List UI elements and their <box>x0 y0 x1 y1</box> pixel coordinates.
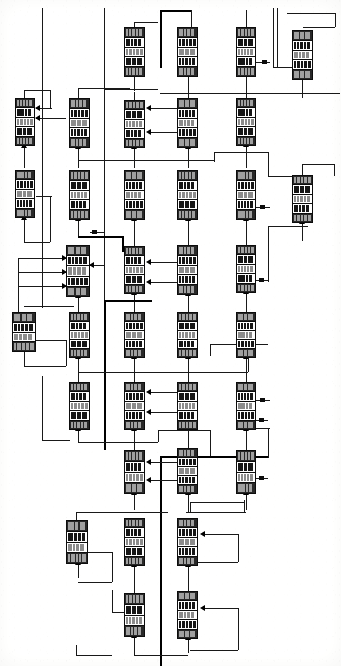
block-text-row <box>125 191 144 201</box>
block-text-row <box>70 349 89 357</box>
illegible-micro-text <box>238 68 254 75</box>
illegible-micro-text <box>68 278 88 285</box>
block-text-row <box>178 592 197 601</box>
illegible-micro-text <box>14 343 34 350</box>
block-text-row <box>125 101 144 110</box>
block-text-row <box>67 521 87 532</box>
wire-horizontal <box>76 655 112 656</box>
block-text-row <box>16 137 34 145</box>
block-text-row <box>178 266 197 276</box>
block-text-row <box>178 181 197 191</box>
illegible-micro-text <box>71 110 88 117</box>
illegible-micro-text <box>126 172 143 179</box>
wire-vertical <box>134 566 135 594</box>
wire-horizontal <box>24 242 50 243</box>
block-text-row <box>237 313 255 322</box>
illegible-micro-text <box>238 463 254 471</box>
illegible-micro-text <box>179 58 196 65</box>
block-text-row <box>293 204 312 213</box>
block-text-row <box>178 210 197 219</box>
diagram-block <box>124 450 145 494</box>
wire-vertical <box>188 295 189 313</box>
illegible-micro-text <box>238 211 254 218</box>
wire-vertical <box>112 552 113 582</box>
wire-horizontal <box>204 534 238 535</box>
block-text-row <box>178 119 197 129</box>
wire-vertical <box>50 90 51 108</box>
illegible-micro-text <box>238 314 254 320</box>
block-text-row <box>70 340 89 349</box>
block-text-row <box>237 200 255 210</box>
block-text-row <box>293 60 312 70</box>
wire-vertical <box>78 148 79 168</box>
block-text-row <box>178 476 197 485</box>
wire-horizontal <box>134 22 158 23</box>
diagram-block <box>66 520 88 564</box>
block-text-row <box>125 322 144 331</box>
illegible-micro-text <box>238 192 254 199</box>
illegible-micro-text <box>179 323 196 329</box>
block-text-row <box>125 57 144 67</box>
diagram-block <box>236 312 256 358</box>
block-text-row <box>70 191 89 201</box>
block-text-row <box>178 392 197 401</box>
block-text-row <box>70 210 89 219</box>
illegible-micro-text <box>68 522 86 530</box>
illegible-micro-text <box>179 49 196 56</box>
wire-vertical <box>42 8 43 308</box>
arrowhead-left <box>146 105 151 111</box>
diagram-block <box>177 382 198 430</box>
diagram-block <box>177 591 198 639</box>
diagram-block <box>124 170 145 220</box>
wire-vertical <box>246 358 247 384</box>
wire-horizontal <box>18 272 66 273</box>
illegible-micro-text <box>238 29 254 36</box>
illegible-micro-text <box>179 247 196 254</box>
illegible-micro-text <box>126 558 143 564</box>
block-text-row <box>70 411 89 420</box>
illegible-micro-text <box>179 477 196 483</box>
block-text-row <box>178 275 197 285</box>
wire-horizontal <box>78 236 124 238</box>
block-text-row <box>70 331 89 340</box>
illegible-micro-text <box>179 558 196 564</box>
illegible-micro-text <box>126 520 143 526</box>
illegible-micro-text <box>179 314 196 320</box>
wire-vertical <box>188 358 189 384</box>
block-text-row <box>178 322 197 331</box>
wire-vertical <box>248 358 249 372</box>
illegible-micro-text <box>179 120 196 127</box>
illegible-micro-text <box>179 139 196 146</box>
block-text-row <box>178 191 197 201</box>
block-text-row <box>178 200 197 210</box>
wire-vertical <box>66 340 67 366</box>
illegible-micro-text <box>71 422 88 428</box>
wire-horizontal <box>24 306 74 307</box>
diagram-sheet <box>0 0 341 666</box>
illegible-micro-text <box>179 548 196 554</box>
wire-horizontal <box>104 300 152 302</box>
wire-vertical <box>188 566 189 592</box>
illegible-micro-text <box>179 593 196 599</box>
wire-vertical <box>134 494 135 510</box>
block-text-row <box>13 333 35 343</box>
illegible-micro-text <box>179 403 196 409</box>
wire-vertical <box>78 564 79 578</box>
block-text-row <box>237 171 255 181</box>
block-text-row <box>237 462 255 473</box>
illegible-micro-text <box>126 412 143 418</box>
block-text-row <box>237 67 255 76</box>
wire-vertical <box>78 220 79 236</box>
illegible-micro-text <box>238 384 254 390</box>
illegible-micro-text <box>17 181 33 187</box>
block-text-row <box>125 285 144 293</box>
illegible-micro-text <box>179 192 196 199</box>
block-text-row <box>237 340 255 349</box>
illegible-micro-text <box>238 100 254 106</box>
illegible-micro-text <box>126 140 143 146</box>
illegible-micro-text <box>238 341 254 347</box>
wire-vertical <box>268 152 269 176</box>
illegible-micro-text <box>126 257 143 263</box>
illegible-micro-text <box>238 484 254 492</box>
illegible-micro-text <box>179 68 196 75</box>
